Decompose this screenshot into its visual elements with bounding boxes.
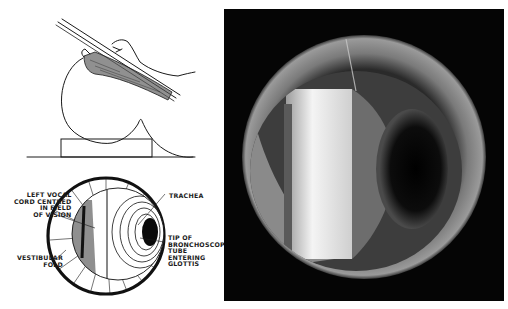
left-vocal-cord [82, 206, 84, 258]
endoscopic-photograph [224, 9, 504, 301]
trachea-lumen-photo [376, 109, 448, 229]
label-vestibular-fold: VESTIBULAR FOLD [17, 255, 63, 268]
patient-position-sketch [0, 0, 220, 170]
head-rest-block [61, 139, 152, 157]
label-trachea: TRACHEA [169, 193, 203, 200]
vocal-cord-highlight [286, 89, 352, 259]
label-left-vocal-cord: LEFT VOCAL CORD CENTRED IN FIELD OF VISI… [14, 192, 72, 218]
label-bronchoscope-tip: TIP OF BRONCHOSCOPE TUBE ENTERING GLOTTI… [168, 235, 229, 268]
hand-fingers [113, 47, 122, 52]
trachea-lumen [142, 218, 158, 246]
laryngoscope-shaded-region [84, 52, 172, 100]
left-vocal-cord-edge [284, 104, 292, 254]
